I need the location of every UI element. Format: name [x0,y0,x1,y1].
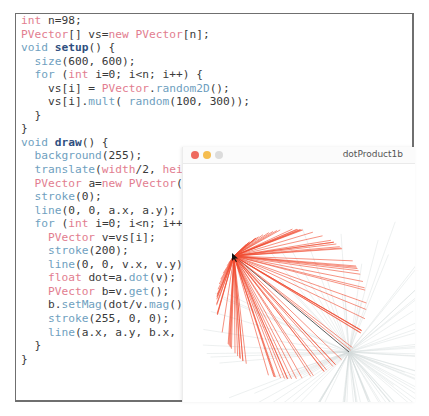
sketch-canvas[interactable] [183,164,415,402]
code-line: vs[i].mult( random(100, 300)); [21,95,405,109]
code-line: } [21,122,405,136]
minimize-button[interactable] [203,151,211,159]
code-line: int n=98; [21,14,405,28]
code-line: PVector[] vs=new PVector[n]; [21,28,405,42]
sketch-title: dotProduct1b [343,149,403,159]
zoom-button[interactable] [215,151,223,159]
sketch-window[interactable]: dotProduct1b [182,147,415,402]
close-button[interactable] [191,151,199,159]
code-line: for (int i=0; i<n; i++) { [21,68,405,82]
code-line: size(600, 600); [21,55,405,69]
code-line: } [21,109,405,123]
code-line: vs[i] = PVector.random2D(); [21,82,405,96]
code-line: void setup() { [21,41,405,55]
sketch-titlebar[interactable]: dotProduct1b [183,147,415,164]
